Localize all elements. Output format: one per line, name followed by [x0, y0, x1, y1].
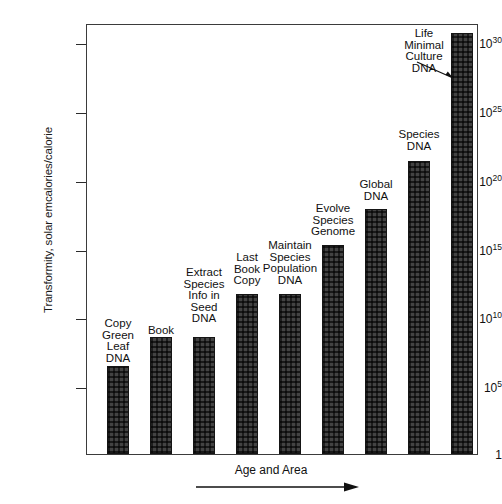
- bar-book[interactable]: [150, 337, 172, 454]
- bar-copy-green-leaf-dna[interactable]: [107, 366, 129, 454]
- bar-species-dna[interactable]: [408, 161, 430, 454]
- transformity-bar-chart: Transformity, solar emcalories/calorie 1…: [0, 0, 502, 504]
- bar-label-book: Book: [134, 325, 188, 337]
- bar-label-maintain-species-pop-dna: Maintain Species Population DNA: [252, 240, 328, 286]
- leader-line-icon: [417, 62, 457, 80]
- bar-label-evolve-species-genome: Evolve Species Genome: [300, 203, 366, 238]
- bar-life-minimal-culture-dna[interactable]: [451, 33, 473, 454]
- bar-extract-species-info[interactable]: [193, 337, 215, 454]
- bar-last-book-copy[interactable]: [236, 294, 258, 454]
- x-axis-caption: Age and Area: [196, 463, 346, 477]
- bar-maintain-species-pop-dna[interactable]: [279, 294, 301, 454]
- y-axis-title: Transformity, solar emcalories/calorie: [42, 80, 54, 360]
- bar-label-global-dna: Global DNA: [346, 179, 406, 202]
- bar-label-species-dna: Species DNA: [388, 129, 450, 152]
- bar-global-dna[interactable]: [365, 209, 387, 454]
- x-axis-arrow-icon: [196, 482, 360, 492]
